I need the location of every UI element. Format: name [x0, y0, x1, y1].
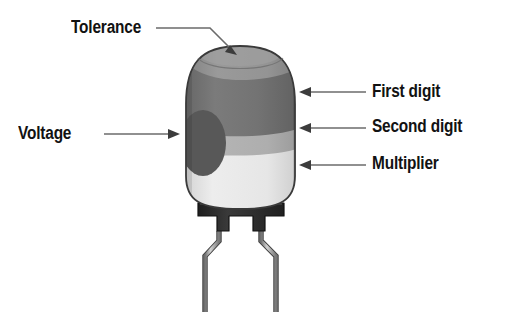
lead-wires — [205, 231, 276, 312]
label-second-digit: Second digit — [372, 118, 462, 136]
arrowhead-voltage — [168, 129, 180, 139]
leader-line-tolerance — [156, 28, 232, 50]
diagram-canvas: Tolerance Voltage First digit Second dig… — [0, 0, 511, 329]
label-voltage: Voltage — [18, 125, 71, 143]
label-first-digit: First digit — [372, 83, 440, 101]
arrowhead-multiplier — [299, 160, 311, 170]
label-multiplier: Multiplier — [372, 155, 439, 173]
label-tolerance: Tolerance — [71, 19, 141, 37]
arrowhead-second-digit — [299, 123, 311, 133]
arrowhead-first-digit — [299, 87, 311, 97]
capacitor-body — [180, 38, 305, 220]
